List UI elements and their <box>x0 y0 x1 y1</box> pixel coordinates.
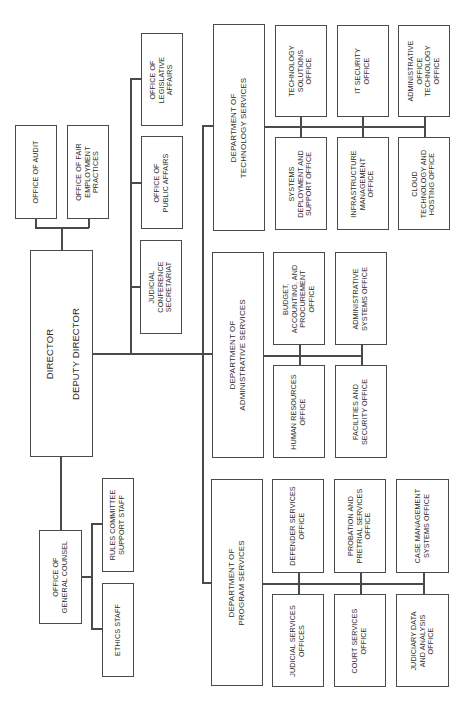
legislative-affairs-label: OFFICE OF LEGISLATIVE AFFAIRS <box>149 56 175 103</box>
office-of-audit-box: OFFICE OF AUDIT <box>15 125 57 219</box>
court-services-office-box: COURT SERVICES OFFICE <box>334 594 386 687</box>
probation-pretrial-office-box: PROBATION AND PRETRIAL SERVICES OFFICE <box>334 479 386 573</box>
admin-systems-label: ADMINISTRATIVE SYSTEMS OFFICE <box>352 266 369 330</box>
infrastructure-label: INFRASTRUCTURE MANAGEMENT OFFICE <box>350 150 376 217</box>
connector <box>298 572 300 594</box>
cloud-technology-office-box: CLOUD TECHNOLOGY AND HOSTING OFFICE <box>398 137 450 230</box>
connector <box>202 125 213 127</box>
cloud-label: CLOUD TECHNOLOGY AND HOSTING OFFICE <box>411 149 437 217</box>
connector <box>360 572 362 594</box>
admin-dept-label: DEPARTMENT OF ADMINISTRATIVE SERVICES <box>228 299 248 410</box>
connector <box>60 456 62 531</box>
human-resources-office-box: HUMAN RESOURCES OFFICE <box>273 365 325 458</box>
defender-label: DEFENDER SERVICES OFFICE <box>289 486 306 565</box>
department-of-technology-services-box: DEPARTMENT OF TECHNOLOGY SERVICES <box>213 24 265 231</box>
connector <box>130 182 141 184</box>
connector <box>361 344 363 366</box>
judicial-conference-label: JUDICIAL CONFERENCE SECRETARIAT <box>148 261 174 312</box>
ao-tech-label: ADMINISTRATIVE OFFICE TECHNOLOGY OFFICE <box>407 40 441 101</box>
connector <box>299 344 301 366</box>
connector <box>35 218 37 228</box>
judiciary-data-analysis-office-box: JUDICIARY DATA AND ANALYSIS OFFICE <box>396 594 449 687</box>
connector <box>92 353 203 355</box>
tech-dept-label: DEPARTMENT OF TECHNOLOGY SERVICES <box>229 77 249 177</box>
defender-services-office-box: DEFENDER SERVICES OFFICE <box>272 479 324 573</box>
ao-technology-office-box: ADMINISTRATIVE OFFICE TECHNOLOGY OFFICE <box>398 25 450 117</box>
judicial-services-label: JUDICIAL SERVICES OFFICES <box>289 605 306 677</box>
connector <box>91 628 102 630</box>
public-affairs-label: OFFICE OF PUBLIC AFFAIRS <box>153 153 170 212</box>
office-of-legislative-affairs-box: OFFICE OF LEGISLATIVE AFFAIRS <box>141 33 183 126</box>
technology-solutions-office-box: TECHNOLOGY SOLUTIONS OFFICE <box>275 25 327 117</box>
ethics-label: ETHICS STAFF <box>114 604 123 656</box>
connector <box>91 523 93 629</box>
program-dept-label: DEPARTMENT OF PROGRAM SERVICES <box>227 540 247 625</box>
connector <box>130 78 132 354</box>
court-services-label: COURT SERVICES OFFICE <box>351 608 368 673</box>
budget-label: BUDGET, ACCOUNTING, AND PROCUREMENT OFFI… <box>282 264 316 333</box>
connector <box>362 116 364 137</box>
connector <box>262 583 424 585</box>
office-of-general-counsel-box: OFFICE OF GENERAL COUNSEL <box>39 530 82 624</box>
office-of-fair-employment-box: OFFICE OF FAIR EMPLOYMENT PRACTICES <box>67 125 109 219</box>
office-of-public-affairs-box: OFFICE OF PUBLIC AFFAIRS <box>141 136 183 229</box>
department-of-program-services-box: DEPARTMENT OF PROGRAM SERVICES <box>211 479 263 686</box>
administrative-systems-office-box: ADMINISTRATIVE SYSTEMS OFFICE <box>335 252 387 345</box>
connector <box>263 355 363 357</box>
department-of-administrative-services-box: DEPARTMENT OF ADMINISTRATIVE SERVICES <box>212 252 264 458</box>
probation-label: PROBATION AND PRETRIAL SERVICES OFFICE <box>347 489 373 564</box>
rules-committee-label: RULES COMMITTEE SUPPORT STAFF <box>109 490 126 561</box>
systems-deploy-label: SYSTEMS DEPLOYMENT AND SUPPORT OFFICE <box>288 150 314 218</box>
connector <box>424 116 426 137</box>
connector <box>423 572 425 594</box>
connector <box>88 218 90 228</box>
systems-deployment-office-box: SYSTEMS DEPLOYMENT AND SUPPORT OFFICE <box>275 137 327 230</box>
judicial-conference-secretariat-box: JUDICIAL CONFERENCE SECRETARIAT <box>140 240 182 334</box>
director-label: DIRECTOR DEPUTY DIRECTOR <box>42 308 81 400</box>
hr-label: HUMAN RESOURCES OFFICE <box>290 374 307 449</box>
rules-committee-support-staff-box: RULES COMMITTEE SUPPORT STAFF <box>102 478 134 572</box>
ethics-staff-box: ETHICS STAFF <box>102 583 134 677</box>
it-security-office-box: IT SECURITY OFFICE <box>337 25 389 117</box>
judiciary-data-label: JUDICIARY DATA AND ANALYSIS OFFICE <box>410 611 436 670</box>
fair-employment-label: OFFICE OF FAIR EMPLOYMENT PRACTICES <box>75 143 101 201</box>
case-management-systems-office-box: CASE MANAGEMENT SYSTEMS OFFICE <box>396 479 449 573</box>
connector <box>300 116 302 137</box>
connector <box>91 523 102 525</box>
office-of-audit-label: OFFICE OF AUDIT <box>32 141 41 204</box>
facilities-security-office-box: FACILITIES AND SECURITY OFFICE <box>335 365 387 458</box>
connector <box>61 227 63 251</box>
director-box: DIRECTOR DEPUTY DIRECTOR <box>30 250 93 457</box>
tech-solutions-label: TECHNOLOGY SOLUTIONS OFFICE <box>288 45 314 96</box>
case-mgmt-label: CASE MANAGEMENT SYSTEMS OFFICE <box>414 489 431 564</box>
connector <box>130 78 141 80</box>
general-counsel-label: OFFICE OF GENERAL COUNSEL <box>52 541 69 613</box>
budget-accounting-procurement-office-box: BUDGET, ACCOUNTING, AND PROCUREMENT OFFI… <box>273 252 325 345</box>
judicial-services-offices-box: JUDICIAL SERVICES OFFICES <box>272 594 324 687</box>
it-security-label: IT SECURITY OFFICE <box>354 48 371 94</box>
facilities-label: FACILITIES AND SECURITY OFFICE <box>352 378 369 444</box>
connector <box>264 126 425 128</box>
infrastructure-management-office-box: INFRASTRUCTURE MANAGEMENT OFFICE <box>337 137 389 230</box>
